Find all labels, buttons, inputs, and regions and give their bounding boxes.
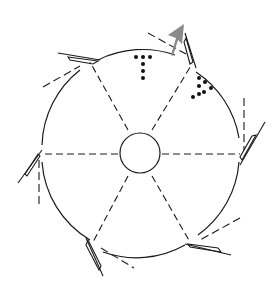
wheel-rim-bottom [103,245,185,258]
dot-group-t-shape [134,55,152,80]
spoke-top-right [152,64,192,130]
wheel-rim-right-top [196,72,239,138]
spoke-bottom-right [152,176,190,242]
diagram-canvas [0,0,277,296]
blade-top-left [43,53,100,87]
dot-group-triangle-cluster [191,76,213,99]
wheel-rim-left-bottom [42,162,90,240]
hub-circle [120,133,160,173]
rotor-diagram: Circular wheel with central hub, six das… [0,0,277,296]
blade-bottom-right [185,218,240,255]
spoke-bottom-left [92,176,128,244]
spoke-top-left [90,62,128,130]
blade-left [18,150,42,206]
wheel-rim-left-top [42,70,80,145]
blade-right [240,98,265,165]
wheel-rim-right-bottom [198,162,239,235]
